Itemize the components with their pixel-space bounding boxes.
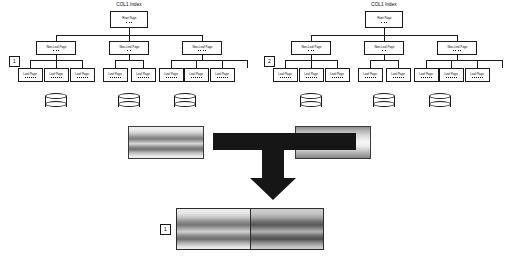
cylinder-bottom xyxy=(373,101,395,107)
connector xyxy=(129,28,130,35)
connector xyxy=(370,60,398,61)
leaf-page-entries xyxy=(472,77,483,78)
leaf-page-node: Leaf Page xyxy=(299,68,324,82)
database-cylinder xyxy=(373,93,395,110)
index-tree-1: COL1 Index Root Page Non-Leaf Page Non-L… xyxy=(4,0,254,120)
leaf-page-label: Leaf Page xyxy=(50,72,64,76)
connector xyxy=(285,60,286,68)
connector xyxy=(426,60,502,61)
cylinder-bottom xyxy=(45,101,67,107)
cylinder-top xyxy=(429,93,451,99)
non-leaf-page-label: Non-Leaf Page xyxy=(46,45,66,49)
non-leaf-page-entries xyxy=(127,50,130,51)
connector xyxy=(171,60,247,61)
non-leaf-page-label: Non-Leaf Page xyxy=(447,45,467,49)
database-cylinder xyxy=(45,93,67,110)
leaf-page-label: Leaf Page xyxy=(216,72,230,76)
leaf-page-node: Leaf Page xyxy=(70,68,95,82)
non-leaf-page-label: Non-Leaf Page xyxy=(301,45,321,49)
leaf-page-node: Leaf Page xyxy=(386,68,411,82)
merge-arrow-head-icon xyxy=(250,178,296,200)
leaf-page-label: Leaf Page xyxy=(392,72,406,76)
database-cylinder xyxy=(429,93,451,110)
cylinder-bottom xyxy=(118,101,140,107)
non-leaf-page-node: Non-Leaf Page xyxy=(437,41,477,55)
leaf-page-label: Leaf Page xyxy=(331,72,345,76)
leaf-page-label: Leaf Page xyxy=(109,72,123,76)
root-page-node: Root Page xyxy=(365,11,403,28)
non-leaf-page-label: Non-Leaf Page xyxy=(192,45,212,49)
root-page-label: Root Page xyxy=(122,16,136,20)
connector xyxy=(370,60,371,68)
leaf-page-label: Leaf Page xyxy=(76,72,90,76)
leaf-page-node: Leaf Page xyxy=(131,68,156,82)
database-cylinder xyxy=(118,93,140,110)
merged-half-left xyxy=(177,209,250,249)
connector xyxy=(56,60,57,68)
leaf-page-node: Leaf Page xyxy=(210,68,235,82)
merge-arrow-stem xyxy=(262,150,284,180)
cylinder-top xyxy=(45,93,67,99)
leaf-page-node: Leaf Page xyxy=(414,68,439,82)
merged-result-bar xyxy=(176,208,324,250)
tree-marker-2-label: 2 xyxy=(268,59,271,64)
merge-arrow-crossbar xyxy=(213,133,356,150)
non-leaf-page-entries xyxy=(53,50,58,51)
connector xyxy=(311,60,312,68)
root-page-label: Root Page xyxy=(377,16,391,20)
connector xyxy=(247,60,248,68)
tree-marker-2: 2 xyxy=(264,56,275,67)
connector xyxy=(384,28,385,35)
leaf-page-node: Leaf Page xyxy=(159,68,184,82)
leaf-page-label: Leaf Page xyxy=(137,72,151,76)
merged-result-marker-label: 1 xyxy=(164,227,167,232)
leaf-page-node: Leaf Page xyxy=(325,68,350,82)
leaf-page-entries xyxy=(365,77,376,78)
connector xyxy=(143,60,144,68)
tree-title: COL1 Index xyxy=(259,2,509,8)
non-leaf-page-node: Non-Leaf Page xyxy=(291,41,331,55)
index-tree-2: COL1 Index Root Page Non-Leaf Page Non-L… xyxy=(259,0,509,120)
non-leaf-page-label: Non-Leaf Page xyxy=(119,45,139,49)
connector xyxy=(337,60,338,68)
cylinder-bottom xyxy=(300,101,322,107)
non-leaf-page-node: Non-Leaf Page xyxy=(182,41,222,55)
leaf-page-node: Leaf Page xyxy=(465,68,490,82)
connector xyxy=(426,60,427,68)
leaf-page-label: Leaf Page xyxy=(165,72,179,76)
cylinder-bottom xyxy=(429,101,451,107)
leaf-page-node: Leaf Page xyxy=(439,68,464,82)
cylinder-top xyxy=(300,93,322,99)
leaf-page-node: Leaf Page xyxy=(358,68,383,82)
root-page-entries xyxy=(381,22,386,23)
non-leaf-page-node: Non-Leaf Page xyxy=(364,41,404,55)
non-leaf-page-entries xyxy=(308,50,313,51)
connector xyxy=(222,60,223,68)
connector xyxy=(82,60,83,68)
leaf-page-node: Leaf Page xyxy=(184,68,209,82)
merged-result-marker: 1 xyxy=(160,224,171,235)
merged-half-right xyxy=(250,209,323,249)
connector xyxy=(398,60,399,68)
database-cylinder xyxy=(174,93,196,110)
leaf-page-entries xyxy=(51,77,62,78)
connector xyxy=(451,60,452,68)
connector xyxy=(115,60,116,68)
non-leaf-page-node: Non-Leaf Page xyxy=(36,41,76,55)
leaf-page-label: Leaf Page xyxy=(445,72,459,76)
leaf-page-label: Leaf Page xyxy=(305,72,319,76)
source-data-bar-left xyxy=(128,126,204,159)
connector xyxy=(30,60,31,68)
leaf-page-label: Leaf Page xyxy=(420,72,434,76)
leaf-page-entries xyxy=(110,77,121,78)
leaf-page-entries xyxy=(332,77,343,78)
leaf-page-entries xyxy=(138,77,149,78)
non-leaf-page-entries xyxy=(453,50,460,51)
connector xyxy=(502,60,503,68)
leaf-page-label: Leaf Page xyxy=(190,72,204,76)
leaf-page-entries xyxy=(421,77,432,78)
leaf-page-entries xyxy=(166,77,177,78)
tree-marker-1-label: 1 xyxy=(13,59,16,64)
diagram-canvas: COL1 Index Root Page Non-Leaf Page Non-L… xyxy=(0,0,519,260)
connector xyxy=(171,60,172,68)
